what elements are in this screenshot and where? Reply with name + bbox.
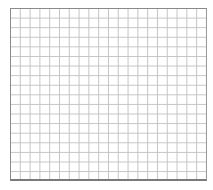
graph-paper-grid: [10, 8, 207, 181]
